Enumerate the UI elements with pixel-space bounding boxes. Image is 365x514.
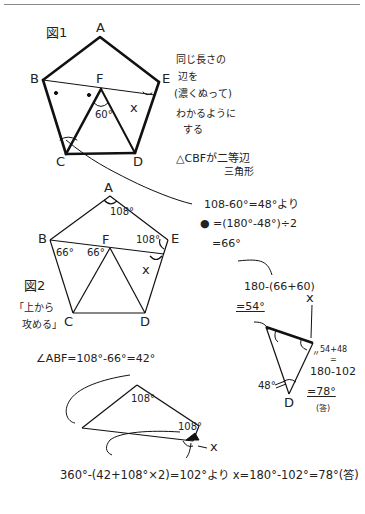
note-line: (濃くぬって) — [174, 89, 232, 99]
figure2-angle-f: 66° — [87, 248, 105, 258]
figure1-angle-f: 60° — [95, 110, 113, 120]
figure1-vertex-a: A — [96, 21, 105, 34]
quad-angle-right: 108° — [178, 422, 202, 432]
figure2-vertex-b: B — [38, 232, 47, 245]
figure2-vertex-d: D — [140, 315, 150, 328]
calc1-line2: ● =(180°-48°)÷2 — [200, 218, 297, 229]
figure2-vertex-a: A — [104, 181, 113, 194]
small-triangle-eq-mark: = — [330, 356, 337, 364]
figure2-angle-x: x — [142, 263, 150, 276]
figure1-title: 図1 — [46, 26, 67, 39]
note-line: わかるように — [176, 109, 236, 119]
figure2-title: 図2 — [24, 279, 45, 292]
quad-angle-top: 108° — [131, 394, 155, 404]
figure2-approach-line1: 「上から — [14, 303, 54, 313]
note-line: 辺を — [178, 72, 198, 82]
figure2-approach-line2: 攻める」 — [22, 320, 62, 330]
figure2-vertex-e: E — [171, 232, 179, 245]
figure2-vertex-f: F — [102, 233, 109, 246]
figure1-vertex-e: E — [162, 72, 170, 85]
figure2-angle-b: 66° — [56, 248, 74, 258]
small-triangle-ditto: 〃 — [312, 350, 320, 358]
figure1-angle-x: x — [130, 101, 138, 114]
calc2-line1: 180-(66+60) — [244, 281, 315, 292]
figure1-vertex-d: D — [133, 155, 143, 168]
small-triangle-line1: 180-102 — [310, 366, 356, 377]
isosceles-note-line2: 三角形 — [224, 167, 254, 177]
small-triangle-x: x — [306, 291, 314, 304]
figure2-angle-e: 108° — [136, 235, 160, 245]
final-equation: 360°-(42+108°×2)=102°より x=180°-102°=78°(… — [60, 470, 359, 482]
figure1-vertex-c: C — [56, 155, 65, 168]
small-triangle-answer: (答) — [316, 405, 330, 413]
figure2-vertex-c: C — [64, 315, 73, 328]
calc1-line3: =66° — [212, 238, 241, 249]
note-line: する — [183, 125, 203, 135]
figure2-angle-a: 108° — [110, 207, 134, 217]
small-triangle-angle-d: 48° — [258, 381, 276, 391]
small-triangle-sum-note: 54+48 — [320, 346, 347, 354]
figure1-vertex-b: B — [30, 72, 39, 85]
figure1-pentagon — [43, 37, 159, 154]
quad-angle-x: x — [210, 440, 218, 453]
calc2-line2: =54° — [236, 301, 265, 312]
small-triangle-line2: =78° — [307, 386, 336, 397]
angle-abf-equation: ∠ABF=108°-66°=42° — [36, 353, 155, 364]
note-line: 同じ長さの — [176, 55, 226, 65]
calc1-line1: 108-60°=48°より — [204, 199, 299, 210]
isosceles-note-line1: △CBFが二等辺 — [176, 153, 250, 164]
figure1-vertex-f: F — [96, 72, 103, 85]
small-triangle-vertex-d: D — [284, 396, 294, 409]
